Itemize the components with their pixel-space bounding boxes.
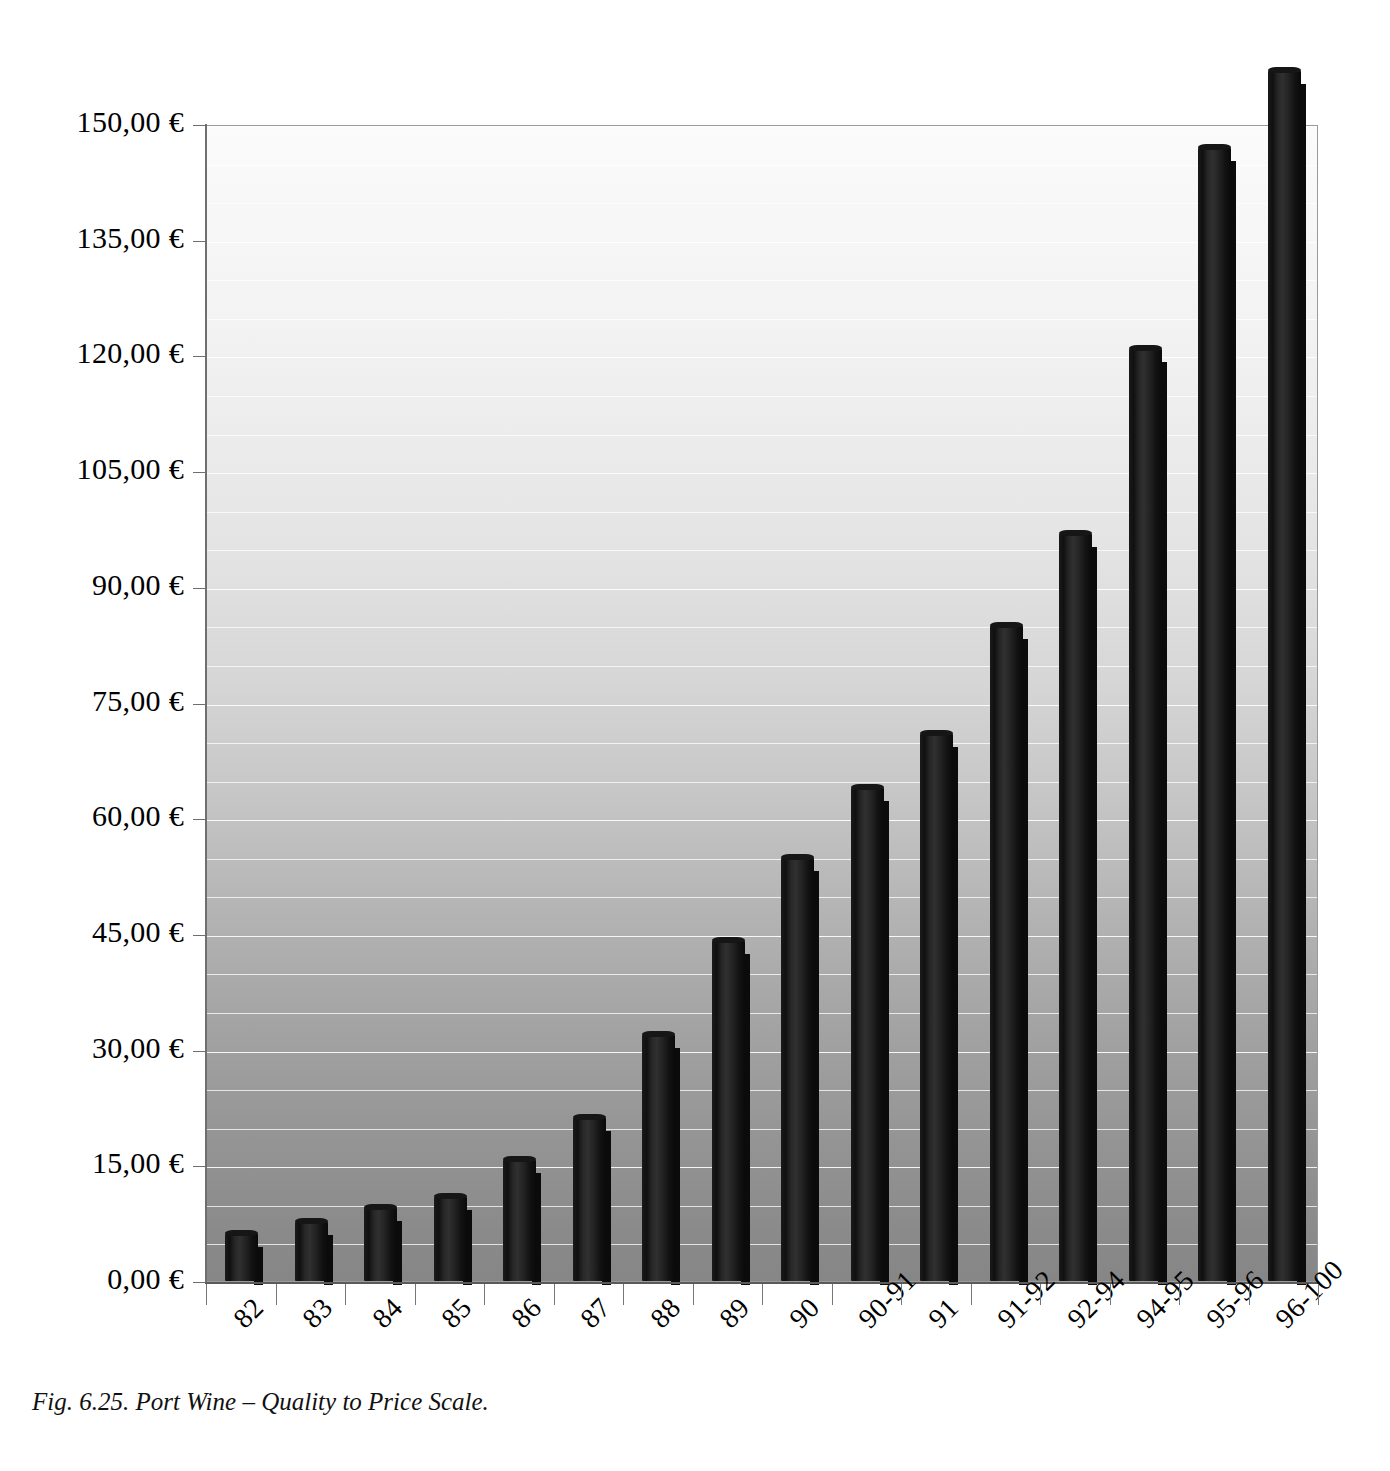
x-tick-mark (1110, 1284, 1111, 1305)
x-tick-label: 86 (505, 1291, 548, 1334)
bar-body (712, 940, 745, 1281)
y-tick-label: 60,00 € (92, 799, 184, 833)
plot-area (206, 125, 1318, 1282)
x-tick-mark (345, 1284, 346, 1305)
bar-cap (851, 784, 884, 790)
x-tick-mark (762, 1284, 763, 1305)
bar-body (1059, 533, 1092, 1281)
x-tick-label: 88 (644, 1291, 687, 1334)
bar (434, 1196, 467, 1281)
bar-cap (920, 730, 953, 736)
y-tick-label: 30,00 € (92, 1031, 184, 1065)
x-tick-label: 84 (366, 1291, 409, 1334)
bar-cap (503, 1156, 536, 1162)
y-tick-mark (193, 935, 206, 936)
bar (642, 1034, 675, 1281)
bar-cap (642, 1031, 675, 1037)
x-tick-mark (901, 1284, 902, 1305)
bar (573, 1117, 606, 1281)
x-tick-label: 90 (783, 1291, 826, 1334)
x-tick-mark (623, 1284, 624, 1305)
bar-body (434, 1196, 467, 1281)
x-tick-mark (971, 1284, 972, 1305)
x-tick-label: 87 (574, 1291, 617, 1334)
bar-cap (225, 1230, 258, 1236)
bar-body (851, 787, 884, 1281)
bar-cap (1268, 67, 1301, 73)
x-tick-label: 85 (435, 1291, 478, 1334)
y-tick-mark (193, 472, 206, 473)
x-tick-mark (1318, 1284, 1319, 1305)
bar-body (1268, 70, 1301, 1281)
y-tick-label: 15,00 € (92, 1146, 184, 1180)
bar-body (1198, 147, 1231, 1281)
bar-cap (573, 1114, 606, 1120)
bar-cap (1198, 144, 1231, 150)
bar-body (573, 1117, 606, 1281)
x-tick-mark (554, 1284, 555, 1305)
y-tick-mark (193, 1282, 206, 1283)
bar (364, 1207, 397, 1281)
y-tick-label: 75,00 € (92, 684, 184, 718)
figure-container: 0,00 €15,00 €30,00 €45,00 €60,00 €75,00 … (0, 0, 1390, 1471)
bar (225, 1233, 258, 1281)
y-tick-label: 90,00 € (92, 568, 184, 602)
x-tick-label: 82 (227, 1291, 270, 1334)
x-tick-mark (1179, 1284, 1180, 1305)
bar-body (642, 1034, 675, 1281)
bar (295, 1221, 328, 1281)
x-tick-mark (693, 1284, 694, 1305)
y-tick-mark (193, 1051, 206, 1052)
bar (503, 1159, 536, 1281)
bar-body (990, 625, 1023, 1281)
y-tick-label: 0,00 € (107, 1262, 184, 1296)
x-tick-mark (1249, 1284, 1250, 1305)
bar-body (503, 1159, 536, 1281)
bar-cap (990, 622, 1023, 628)
x-tick-label: 91 (922, 1291, 965, 1334)
bar-body (364, 1207, 397, 1281)
bar-cap (781, 854, 814, 860)
bar-cap (295, 1218, 328, 1224)
x-tick-label: 83 (296, 1291, 339, 1334)
bars-layer (207, 126, 1317, 1281)
x-tick-mark (206, 1284, 207, 1305)
bar (781, 857, 814, 1281)
y-tick-label: 105,00 € (77, 452, 184, 486)
x-tick-mark (484, 1284, 485, 1305)
bar (990, 625, 1023, 1281)
bar (712, 940, 745, 1281)
y-tick-mark (193, 241, 206, 242)
bar-body (295, 1221, 328, 1281)
bar-cap (434, 1193, 467, 1199)
y-tick-label: 135,00 € (77, 221, 184, 255)
bar-cap (364, 1204, 397, 1210)
figure-caption: Fig. 6.25. Port Wine – Quality to Price … (32, 1388, 489, 1416)
bar-cap (1059, 530, 1092, 536)
y-tick-mark (193, 588, 206, 589)
bar (1198, 147, 1231, 1281)
bar-body (225, 1233, 258, 1281)
bar-body (1129, 348, 1162, 1281)
bar-cap (1129, 345, 1162, 351)
bar (851, 787, 884, 1281)
y-tick-label: 120,00 € (77, 336, 184, 370)
y-tick-mark (193, 356, 206, 357)
x-tick-mark (1040, 1284, 1041, 1305)
y-tick-mark (193, 704, 206, 705)
bar (1059, 533, 1092, 1281)
bar (1268, 70, 1301, 1281)
y-tick-label: 150,00 € (77, 105, 184, 139)
bar-cap (712, 937, 745, 943)
y-tick-mark (193, 1166, 206, 1167)
bar-body (920, 733, 953, 1281)
x-tick-label: 89 (713, 1291, 756, 1334)
bar (920, 733, 953, 1281)
y-tick-label: 45,00 € (92, 915, 184, 949)
x-tick-mark (276, 1284, 277, 1305)
y-tick-mark (193, 125, 206, 126)
x-tick-mark (415, 1284, 416, 1305)
bar-body (781, 857, 814, 1281)
bar (1129, 348, 1162, 1281)
y-tick-mark (193, 819, 206, 820)
